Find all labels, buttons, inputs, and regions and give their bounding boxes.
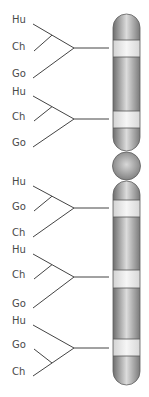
branch-line [34,265,52,279]
branch-line [33,48,74,78]
species-label-ch: Ch [12,42,25,52]
phylogenetic-trees [33,24,109,376]
branch-line [33,119,74,147]
branch-line [33,186,74,208]
tree-1 [33,24,109,78]
species-label-ch: Ch [12,367,25,377]
branch-line [33,325,74,348]
light-band-2 [114,111,140,128]
tree-2 [33,96,109,147]
light-band-5 [114,339,140,356]
branch-line [33,24,74,48]
species-label-go: Go [12,69,26,79]
branch-line [34,107,52,121]
centromere [113,152,141,180]
chromosome-upper-arm [113,14,140,151]
tree-4 [33,254,109,308]
branch-line [33,208,74,237]
species-label-ch: Ch [12,228,25,238]
diagram-canvas [0,0,149,397]
tree-5 [33,325,109,376]
species-label-hu: Hu [12,177,26,187]
species-label-go: Go [12,340,26,350]
branch-line [33,96,74,119]
branch-line [34,196,52,211]
species-label-go: Go [12,202,26,212]
light-band-1 [114,40,140,57]
light-band-4 [114,270,140,288]
species-label-hu: Hu [12,87,26,97]
species-label-ch: Ch [12,112,25,122]
branch-line [34,35,52,51]
branch-line [33,254,74,277]
light-band-3 [114,200,140,217]
species-label-ch: Ch [12,270,25,280]
species-label-go: Go [12,299,26,309]
chromosome-phylogeny-diagram: HuChGoHuChGoHuGoChHuChGoHuGoCh [0,0,149,397]
species-label-hu: Hu [12,15,26,25]
branch-line [34,349,52,363]
species-label-hu: Hu [12,316,26,326]
tree-3 [33,186,109,237]
species-label-go: Go [12,138,26,148]
branch-line [33,277,74,308]
chromosome [113,14,141,385]
species-label-hu: Hu [12,245,26,255]
branch-line [33,348,74,376]
